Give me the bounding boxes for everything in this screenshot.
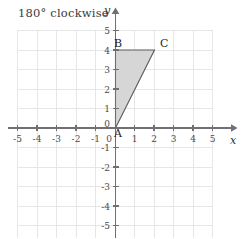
y-tick-label: -2 [101,163,110,173]
y-tick-label: -3 [101,182,110,192]
x-axis-label: x [230,134,237,147]
coordinate-plane: -5 -4 -3 -2 -1 0 1 2 3 4 5 5 4 3 2 1 0 -… [0,0,245,239]
x-tick-label: 2 [151,134,157,144]
y-tick-label: 3 [104,65,110,75]
axis-lines [8,8,238,239]
vertex-label-b: B [114,37,122,50]
x-tick-label: -1 [91,134,100,144]
x-tick-label: -2 [72,134,81,144]
vertex-label-a: A [113,127,123,140]
y-tick-label: 5 [104,26,110,36]
y-axis-label: y [103,4,111,17]
y-tick-label: -5 [101,221,110,231]
y-tick-label: -4 [101,202,110,212]
y-origin-label: 0 [104,119,110,129]
x-tick-label: -5 [13,134,22,144]
x-tick-label: 3 [171,134,177,144]
x-axis-arrow-icon [231,124,238,132]
x-tick-label: 4 [190,134,196,144]
y-tick-label: 4 [104,46,110,56]
x-tick-label: -4 [33,134,42,144]
graph-screenshot: 180° clockwise [0,0,245,239]
y-tick-label: 2 [104,85,110,95]
y-tick-label: -1 [101,143,110,153]
x-tick-label: -3 [52,134,61,144]
x-tick-label: 5 [210,134,216,144]
vertex-label-c: C [160,37,168,50]
y-tick-label: 1 [104,104,110,114]
x-tick-label: 1 [132,134,138,144]
y-axis-arrow-icon [112,8,120,15]
